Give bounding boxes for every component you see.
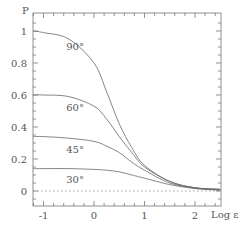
x-tick-label: 2 (192, 210, 198, 221)
x-tick-label: -1 (39, 210, 49, 221)
series-45deg (33, 136, 220, 189)
y-tick-label: 0.8 (11, 58, 27, 69)
x-axis-label: Log ε (211, 209, 238, 220)
annotation-label: 45° (66, 144, 84, 155)
y-tick-label: 1 (21, 26, 27, 37)
y-tick-label: 0.2 (11, 154, 27, 165)
series-60deg (33, 95, 220, 190)
annotation-label: 30° (66, 174, 84, 185)
data-series (33, 31, 221, 191)
curve-annotations: 90°60°45°30° (66, 41, 84, 185)
y-axis-label: P (22, 5, 29, 16)
chart: -101200.20.40.60.81 90°60°45°30° P Log ε (0, 0, 249, 231)
annotation-label: 60° (66, 102, 84, 113)
x-tick-label: 1 (141, 210, 147, 221)
tick-labels: -101200.20.40.60.81 (11, 26, 198, 222)
axis-ticks (33, 13, 221, 206)
y-tick-label: 0.4 (11, 122, 27, 133)
y-tick-label: 0.6 (11, 90, 27, 101)
plot-frame (33, 13, 221, 206)
series-90deg (33, 31, 220, 189)
y-tick-label: 0 (21, 186, 27, 197)
x-tick-label: 0 (91, 210, 97, 221)
annotation-label: 90° (66, 41, 84, 52)
